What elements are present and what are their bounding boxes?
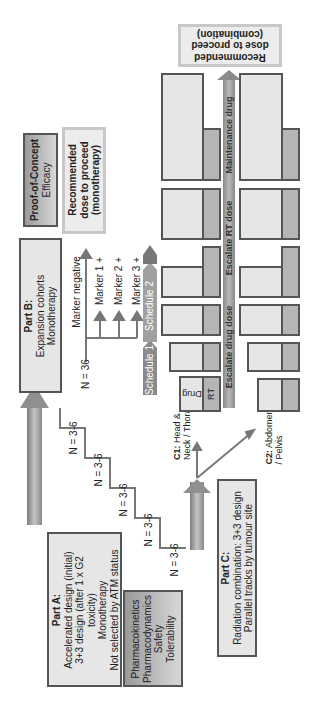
- part-b-title: Part B:: [23, 275, 35, 357]
- c2-rt-block: [281, 304, 300, 336]
- recommended-combination-box: Recommended dose to proceed (combination…: [178, 24, 282, 67]
- c2-title: C2:: [264, 450, 274, 465]
- part-b-line: Monotherapy: [46, 275, 58, 357]
- c2-maintenance-rt-block: [281, 128, 300, 181]
- proof-of-concept-box: Proof-of-Concept Efficacy: [23, 133, 58, 227]
- staircase-label: N = 3-6: [143, 513, 155, 546]
- c2-rt-block: [281, 378, 300, 412]
- c2-drug-block: [239, 304, 283, 336]
- c2-drug-block: [239, 188, 283, 240]
- c2-drug-block: [257, 378, 283, 412]
- c1-drug-block: [161, 266, 204, 298]
- part-a-line: toxicity): [85, 550, 97, 671]
- c1-rt-block: [202, 246, 221, 298]
- track-c1-label: C1: Head & Neck / Thorax: [172, 404, 193, 460]
- marker-1-label: Marker 1 +: [94, 257, 106, 305]
- part-b-line: Expansion cohorts: [34, 275, 46, 357]
- part-c-line: Radiation combination: 3+3 design: [231, 491, 243, 645]
- expansion-n-label: N = 36: [80, 359, 92, 389]
- c1-maintenance-rt-block: [202, 128, 221, 181]
- legend-drug-label: Drug: [182, 389, 202, 399]
- schedule-1-label: Schedule 1: [144, 345, 156, 395]
- endpoint-pd: Pharmacodynamics: [142, 595, 154, 683]
- part-b-box: Part B: Expansion cohorts Monotherapy: [19, 238, 62, 393]
- part-a-line: Monotherapy: [97, 550, 109, 671]
- rec-combo-line: dose to proceed: [191, 40, 268, 52]
- recommended-monotherapy-box: Recommended dose to proceed (monotherapy…: [62, 127, 106, 234]
- endpoint-safety: Safety: [153, 595, 165, 683]
- staircase-label: N = 3-6: [118, 483, 130, 516]
- part-a-title: Part A:: [51, 550, 63, 671]
- endpoint-pk: Pharmacokinetics: [130, 595, 142, 683]
- part-a-line: Not selected by ATM status: [108, 550, 120, 671]
- schedule-2-label: Schedule 2: [144, 281, 156, 331]
- rec-mono-line: (monotherapy): [90, 141, 102, 218]
- staircase-label: N = 3-6: [93, 453, 105, 486]
- legend-drug-block: Drug: [179, 376, 204, 412]
- rec-combo-line: Recommended: [191, 52, 268, 64]
- staircase-label: N = 3-6: [68, 421, 80, 454]
- poc-subtitle: Efficacy: [40, 139, 52, 221]
- c1-text2: Neck / Thorax: [182, 404, 192, 460]
- c2-text2: / Pelvis: [274, 409, 284, 464]
- legend-rt-label: RT: [206, 388, 216, 400]
- axis-maintenance-drug: Maintenance drug: [224, 96, 234, 173]
- marker-negative-label: Marker negative: [71, 256, 83, 328]
- c2-rt-block: [281, 246, 300, 298]
- legend-rt-block: RT: [202, 376, 221, 412]
- c1-maintenance-block: [161, 73, 204, 181]
- arrow-a-to-b: [20, 385, 49, 525]
- poc-title: Proof-of-Concept: [29, 139, 41, 221]
- part-c-box: Part C: Radiation combination: 3+3 desig…: [217, 479, 257, 657]
- c2-text: Abdomen: [264, 409, 274, 448]
- part-a-box: Part A: Accelerated design (initial) 3+3…: [47, 532, 122, 687]
- part-c-line: Parallel tracks by tumour site: [243, 491, 255, 645]
- c1-drug-block: [161, 188, 204, 240]
- rec-combo-line: (combination): [191, 29, 268, 41]
- c1-drug-block: [169, 342, 204, 372]
- axis-escalate-drug: Escalate drug dose: [224, 306, 234, 389]
- track-c2-label: C2: Abdomen / Pelvis: [264, 409, 285, 464]
- arrow-to-part-c: [183, 479, 211, 550]
- pk-pd-endpoints-box: Pharmacokinetics Pharmacodynamics Safety…: [123, 590, 183, 687]
- c2-rt-block: [281, 342, 300, 372]
- endpoint-tolerability: Tolerability: [165, 595, 177, 683]
- c1-rt-block: [202, 188, 221, 240]
- c2-drug-block: [247, 342, 283, 372]
- axis-escalate-rt: Escalate RT dose: [224, 201, 234, 276]
- part-a-line: Accelerated design (initial): [62, 550, 74, 671]
- c1-drug-block: [161, 304, 204, 336]
- marker-3-label: Marker 3 +: [131, 257, 143, 305]
- c2-drug-block: [239, 266, 283, 298]
- c1-rt-block: [202, 304, 221, 336]
- part-c-title: Part C:: [220, 491, 232, 645]
- c1-text: Head &: [172, 413, 182, 443]
- staircase-label: N = 3-6: [169, 543, 181, 576]
- marker-2-label: Marker 2 +: [113, 257, 125, 305]
- c2-maintenance-block: [239, 73, 283, 181]
- c1-rt-block: [202, 342, 221, 372]
- track-branch-arrows: [193, 430, 254, 478]
- rec-mono-line: dose to proceed: [78, 141, 90, 218]
- part-a-line: 3+3 design (after 1 x G2: [74, 550, 86, 671]
- c1-title: C1:: [172, 445, 182, 460]
- c2-rt-block: [281, 188, 300, 240]
- rec-mono-line: Recommended: [67, 141, 79, 218]
